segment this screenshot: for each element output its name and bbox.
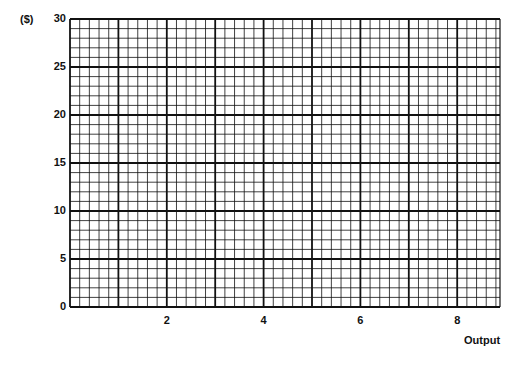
y-tick-label: 0 bbox=[42, 300, 66, 312]
y-axis-label: ($) bbox=[20, 13, 33, 25]
y-tick-label: 25 bbox=[42, 60, 66, 72]
y-tick-label: 20 bbox=[42, 108, 66, 120]
x-tick-label: 2 bbox=[157, 314, 177, 326]
x-tick-label: 6 bbox=[350, 314, 370, 326]
y-tick-label: 10 bbox=[42, 204, 66, 216]
y-tick-label: 30 bbox=[42, 12, 66, 24]
x-tick-label: 8 bbox=[447, 314, 467, 326]
y-tick-label: 5 bbox=[42, 252, 66, 264]
x-axis-label: Output bbox=[464, 334, 500, 346]
y-tick-label: 15 bbox=[42, 156, 66, 168]
x-tick-label: 4 bbox=[254, 314, 274, 326]
chart-grid bbox=[0, 0, 527, 366]
